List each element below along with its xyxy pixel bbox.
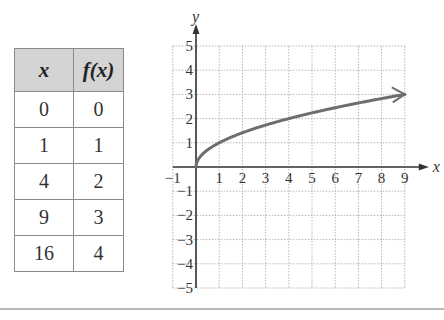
x-tick-label: 7 [355, 170, 363, 186]
y-tick-label: 3 [186, 86, 194, 102]
y-axis-label: y [190, 8, 200, 26]
bottom-divider [0, 308, 444, 310]
y-tick-label: −5 [177, 280, 193, 296]
x-axis-arrow-icon [419, 164, 429, 171]
x-tick-label: 5 [308, 170, 316, 186]
y-tick-label: 5 [186, 38, 194, 54]
x-tick-label: 6 [331, 170, 339, 186]
x-tick-label: 4 [285, 170, 293, 186]
sqrt-graph: −112345678954321−1−2−3−4−5 x y [0, 0, 444, 320]
y-tick-label: −1 [177, 183, 193, 199]
y-tick-label: −3 [177, 232, 193, 248]
x-tick-label: 8 [378, 170, 386, 186]
x-tick-label: 2 [239, 170, 247, 186]
y-tick-label: −2 [177, 207, 193, 223]
axes [173, 24, 429, 288]
y-axis-arrow-icon [193, 24, 200, 34]
x-tick-label: 1 [215, 170, 223, 186]
y-tick-label: 2 [186, 111, 194, 127]
x-axis-label: x [432, 158, 440, 175]
x-tick-label: 3 [262, 170, 270, 186]
y-tick-label: −4 [177, 256, 193, 272]
x-tick-label: 9 [401, 170, 409, 186]
function-curve [196, 94, 405, 167]
y-tick-label: 1 [186, 135, 194, 151]
y-tick-label: 4 [186, 62, 194, 78]
